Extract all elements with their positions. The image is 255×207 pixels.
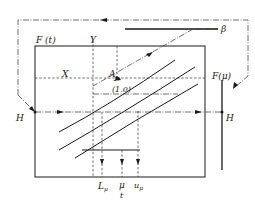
arrow-diagonal-up-icon bbox=[146, 52, 153, 57]
curve-1 bbox=[59, 60, 175, 132]
point-a bbox=[115, 76, 119, 80]
arrow-down-mu-icon bbox=[120, 159, 124, 165]
label-f-mu: F(μ) bbox=[211, 71, 232, 81]
arrow-down-u-icon bbox=[136, 159, 140, 165]
label-a: A bbox=[108, 69, 116, 79]
label-x: X bbox=[61, 69, 69, 79]
label-one-zero: (1.0) bbox=[112, 85, 131, 94]
arrow-h-right2-icon bbox=[195, 110, 202, 114]
arrow-left-icon bbox=[100, 18, 107, 22]
nomogram-diagram: F (t) Y X A (1.0) β F(μ) H H Lμ μ t uμ bbox=[0, 0, 255, 207]
label-h-right: H bbox=[225, 113, 234, 123]
label-l-mu: Lμ bbox=[97, 181, 108, 193]
label-y: Y bbox=[90, 35, 97, 45]
arrow-into-fmu-icon bbox=[233, 82, 238, 89]
arrow-down-l-icon bbox=[100, 159, 104, 165]
label-h-left: H bbox=[15, 113, 24, 123]
label-mu: μ bbox=[119, 180, 125, 190]
curve-3 bbox=[75, 84, 198, 158]
curves bbox=[59, 60, 198, 158]
curve-2 bbox=[59, 67, 195, 150]
label-f-t: F (t) bbox=[35, 35, 56, 45]
h-line bbox=[34, 110, 224, 114]
label-u-mu: uμ bbox=[134, 181, 143, 192]
label-t: t bbox=[120, 191, 124, 200]
drop-lines bbox=[100, 111, 140, 177]
outer-loop bbox=[18, 18, 248, 112]
arrow-h-right-icon bbox=[57, 110, 64, 114]
label-beta: β bbox=[220, 24, 226, 34]
